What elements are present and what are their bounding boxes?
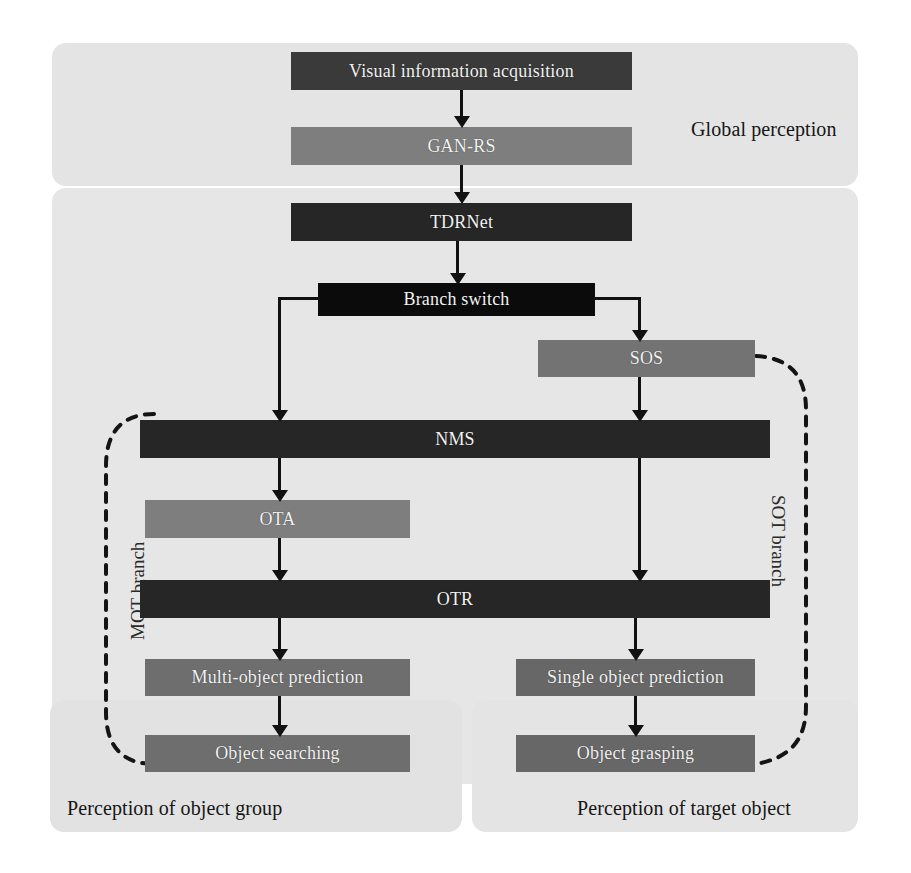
node-branch-switch[interactable]: Branch switch [318,283,595,316]
node-sos[interactable]: SOS [538,340,755,377]
arrowhead-singleobject-to-grasping [628,725,644,737]
arrowhead-otr-to-singleobject [628,649,644,661]
node-object-searching[interactable]: Object searching [145,735,410,772]
connector-nms-to-otr-right [638,458,641,576]
node-gan-rs[interactable]: GAN-RS [291,127,632,165]
region-label-global-perception: Global perception [691,118,837,141]
node-single-object-prediction[interactable]: Single object prediction [516,659,755,696]
node-nms[interactable]: NMS [140,420,770,458]
connector-branchswitch-left-vertical [278,297,281,415]
arrowhead-nms-to-otr-right [632,570,648,582]
arrowhead-nms-to-ota [272,490,288,502]
arrowhead-branchswitch-to-sos [632,330,648,342]
connector-branchswitch-right-horizontal [593,297,641,300]
arrowhead-multiobject-to-searching [272,725,288,737]
connector-tdrnet-to-branchswitch [456,241,459,277]
node-object-grasping[interactable]: Object grasping [516,735,755,772]
arrowhead-tdrnet-to-branchswitch [450,273,466,285]
connector-branchswitch-left-horizontal [278,297,320,300]
arrowhead-ota-to-otr [272,570,288,582]
arrowhead-otr-to-multiobject [272,649,288,661]
node-ota[interactable]: OTA [145,500,410,538]
region-label-perception-object-group: Perception of object group [67,797,282,820]
node-tdrnet[interactable]: TDRNet [291,203,632,241]
region-label-perception-target-object: Perception of target object [577,797,791,820]
diagram-canvas: Global perception Perception of object g… [0,0,911,873]
node-otr[interactable]: OTR [140,580,770,618]
arrowhead-visual-to-ganrs [454,116,470,128]
sot-branch-label: SOT branch [767,495,789,587]
arrowhead-ganrs-to-tdrnet [454,192,470,204]
node-visual-information-acquisition[interactable]: Visual information acquisition [291,52,632,90]
arrowhead-sos-to-nms [632,410,648,422]
arrowhead-branchswitch-to-nms [272,410,288,422]
node-multi-object-prediction[interactable]: Multi-object prediction [145,659,410,696]
